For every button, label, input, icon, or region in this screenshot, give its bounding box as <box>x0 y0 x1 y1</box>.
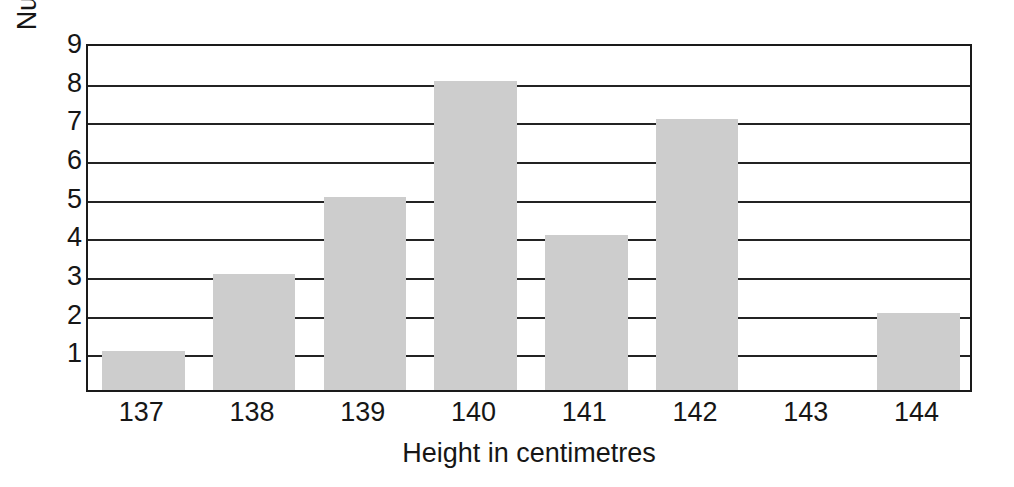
x-tick-label-144: 144 <box>894 398 939 428</box>
bar-series <box>88 46 970 390</box>
x-axis-tick-labels: 137138139140141142143144 <box>86 398 972 434</box>
bar-chart-figure: Number of children 123456789 13713813914… <box>0 0 1014 487</box>
x-tick-label-140: 140 <box>451 398 496 428</box>
x-tick-label-141: 141 <box>562 398 607 428</box>
y-tick-label-7: 7 <box>52 108 82 135</box>
x-tick-label-139: 139 <box>340 398 385 428</box>
y-tick-label-8: 8 <box>52 69 82 96</box>
y-tick-label-4: 4 <box>52 224 82 251</box>
x-tick-label-138: 138 <box>229 398 274 428</box>
x-tick-label-142: 142 <box>672 398 717 428</box>
y-tick-label-9: 9 <box>52 31 82 58</box>
bar-139 <box>324 197 407 390</box>
y-tick-label-2: 2 <box>52 301 82 328</box>
x-tick-label-143: 143 <box>783 398 828 428</box>
x-axis-title: Height in centimetres <box>86 438 972 469</box>
bar-140 <box>434 81 517 390</box>
x-tick-label-137: 137 <box>119 398 164 428</box>
bar-144 <box>877 313 960 390</box>
y-tick-label-3: 3 <box>52 263 82 290</box>
y-axis-tick-labels: 123456789 <box>52 0 82 487</box>
bar-137 <box>102 351 185 390</box>
y-tick-label-5: 5 <box>52 185 82 212</box>
bar-141 <box>545 235 628 390</box>
bar-142 <box>656 119 739 390</box>
y-tick-label-1: 1 <box>52 340 82 367</box>
y-axis-title: Number of children <box>10 0 44 92</box>
y-tick-label-6: 6 <box>52 147 82 174</box>
bar-138 <box>213 274 296 390</box>
plot-area <box>86 44 972 392</box>
